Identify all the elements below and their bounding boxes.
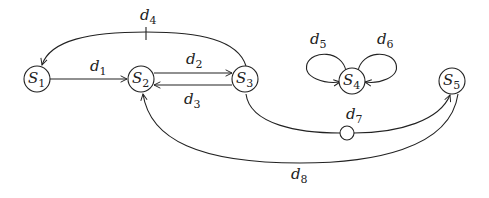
node-s3: S3 [232,66,258,92]
node-s4: S4 [339,68,365,94]
node-s1: S1 [24,66,50,92]
label-d8: d8 [291,165,308,186]
label-d4: d4 [140,6,157,27]
node-s2: S2 [128,66,154,92]
state-diagram: S1 S2 S3 S4 S5 d1 d2 d3 d4 d5 d6 d7 d8 [0,0,489,198]
label-d2: d2 [186,50,203,71]
label-d3: d3 [184,90,201,111]
label-d1: d1 [90,57,107,78]
label-d6: d6 [377,30,394,51]
label-d7: d7 [346,105,363,126]
circle-marker-d7 [340,126,354,140]
edge-d4 [42,32,246,66]
label-d5: d5 [310,30,327,51]
node-s5: S5 [439,68,465,94]
